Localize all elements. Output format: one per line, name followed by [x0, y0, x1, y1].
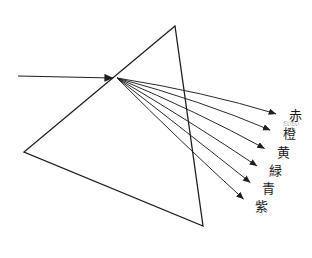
- prism-triangle: [24, 26, 203, 226]
- spectrum-label-violet: 紫: [255, 199, 268, 214]
- incident-light-ray: [18, 76, 113, 78]
- spectrum-label-orange: 橙: [283, 126, 296, 141]
- spectrum-label-green: 緑: [269, 163, 282, 178]
- dispersed-ray-violet: [117, 78, 244, 199]
- spectrum-label-group: 赤橙だいだい黄緑青紫: [255, 108, 302, 214]
- prism-dispersion-svg: 赤橙だいだい黄緑青紫: [0, 0, 312, 258]
- dispersed-ray-orange: [117, 78, 270, 130]
- spectrum-label-yellow: 黄: [277, 145, 290, 160]
- spectrum-label-blue: 青: [262, 181, 275, 196]
- diagram-canvas: 赤橙だいだい黄緑青紫: [0, 0, 312, 258]
